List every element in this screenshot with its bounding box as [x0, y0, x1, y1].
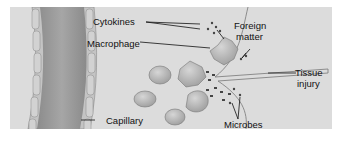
label-tissue-injury-1: Tissue: [295, 67, 323, 78]
label-tissue-injury-2: injury: [297, 78, 320, 89]
label-foreign-matter-2: matter: [236, 31, 263, 42]
label-microbes: Microbes: [224, 119, 263, 129]
label-macrophage: Macrophage: [87, 38, 140, 49]
capillary-shape: [28, 7, 97, 129]
diagram-illustration: [10, 7, 332, 129]
inflammation-diagram: Cytokines Macrophage Foreign matter Tiss…: [10, 7, 332, 129]
label-foreign-matter-1: Foreign: [234, 20, 266, 31]
label-cytokines: Cytokines: [93, 16, 135, 27]
label-capillary: Capillary: [106, 115, 143, 126]
